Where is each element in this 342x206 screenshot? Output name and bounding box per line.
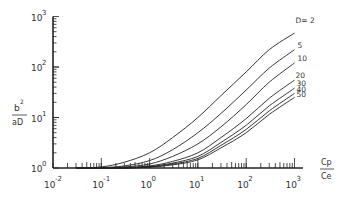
svg-text:3: 3 [42,9,46,17]
svg-text:10: 10 [44,180,56,190]
chart: 10-210-1100101102103100101102103 D= 2510… [0,0,342,206]
svg-text:10: 10 [237,180,249,190]
svg-text:10: 10 [31,13,43,23]
chart-canvas: 10-210-1100101102103100101102103 D= 2510… [0,0,342,206]
svg-text:1: 1 [200,175,204,183]
svg-text:10: 10 [92,180,104,190]
x-tick-label: 102 [237,175,252,190]
svg-text:-2: -2 [55,175,62,183]
curves: D= 251020304050 [76,16,315,168]
curve-label: D= 2 [296,16,315,25]
svg-text:10: 10 [189,180,201,190]
svg-text:0: 0 [42,160,46,168]
x-tick-label: 101 [189,175,204,190]
y-label-denominator: aD [12,118,23,127]
y-tick-label: 102 [31,59,46,73]
svg-text:10: 10 [141,180,153,190]
curve-label: 50 [297,90,307,99]
y-tick-label: 103 [31,9,46,23]
svg-text:0: 0 [152,175,156,183]
svg-text:1: 1 [42,110,46,118]
x-tick-label: 103 [286,175,301,190]
x-label-denominator: Ce [321,172,332,181]
x-tick-label: 10-1 [92,175,110,190]
svg-text:10: 10 [31,114,43,124]
svg-text:-1: -1 [103,175,110,183]
y-tick-label: 100 [31,160,46,174]
svg-text:10: 10 [286,180,298,190]
curve-d-20 [76,80,295,168]
svg-text:10: 10 [31,164,43,174]
x-tick-label: 10-2 [44,175,62,190]
svg-text:2: 2 [248,175,252,183]
curve-d-10 [76,63,295,168]
svg-text:3: 3 [297,175,301,183]
curve-d-2 [76,33,295,168]
x-label-numerator: Cp [321,158,332,167]
y-label-numerator-exponent: 2 [20,98,24,105]
svg-text:10: 10 [31,63,43,73]
curve-label: 5 [298,41,303,50]
y-tick-label: 101 [31,110,46,124]
svg-text:2: 2 [42,59,46,67]
x-tick-label: 100 [141,175,156,190]
curve-label: 10 [298,54,308,63]
